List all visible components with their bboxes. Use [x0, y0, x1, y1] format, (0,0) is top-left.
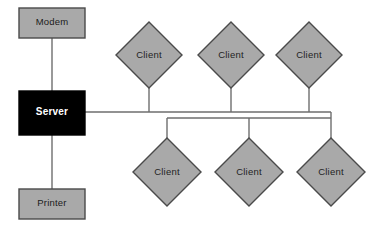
node-client-bottom-2[interactable]	[215, 138, 283, 206]
node-client-bottom-1[interactable]	[133, 138, 201, 206]
node-client-top-1[interactable]	[116, 22, 182, 88]
node-server[interactable]	[19, 91, 85, 135]
node-client-top-3[interactable]	[276, 22, 342, 88]
node-modem[interactable]	[19, 8, 85, 38]
node-client-bottom-3[interactable]	[297, 138, 365, 206]
diamond-nodes	[116, 22, 365, 206]
diagram-canvas-svg	[0, 0, 378, 228]
node-printer[interactable]	[19, 189, 85, 219]
network-diagram: Modem Server Printer Client Client Clien…	[0, 0, 378, 228]
node-client-top-2[interactable]	[198, 22, 264, 88]
